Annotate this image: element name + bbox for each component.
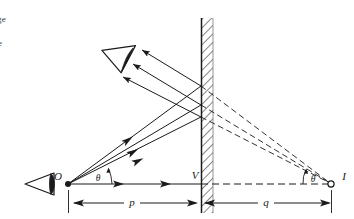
image-point-label: I — [341, 170, 347, 182]
angle-theta-object-arrowhead — [106, 168, 110, 173]
vertex-point-label: V — [192, 169, 200, 181]
reflected-ray-3 — [123, 77, 201, 117]
optics-figure: ge e — [0, 0, 354, 219]
angle-theta-object-label: θ — [96, 173, 101, 183]
observer-eye-receiving-rays — [102, 46, 139, 75]
margin-text-fragment-bottom: e — [0, 38, 2, 48]
object-point-marker — [65, 181, 71, 187]
image-point-marker — [328, 181, 334, 187]
object-point-label: O — [54, 170, 62, 182]
dimension-p-group: p — [69, 190, 199, 213]
dimension-q-group: q — [204, 190, 332, 213]
observer-eye-at-object — [25, 173, 54, 195]
incident-rays — [68, 86, 201, 184]
image-point-group: I — [328, 170, 347, 187]
incident-ray-3-arrowhead — [131, 155, 145, 166]
optical-axis-group — [68, 181, 330, 188]
virtual-ray-2 — [201, 105, 330, 183]
eye-triangle-upper — [102, 46, 139, 75]
angle-theta-image-group: θ — [303, 169, 316, 184]
ray-diagram-canvas: O I V θ θ — [0, 0, 354, 219]
eye-pupil-upper — [119, 48, 137, 71]
incident-ray-1 — [68, 86, 201, 184]
margin-text-fragment-top: ge — [0, 14, 6, 24]
reflected-ray-1 — [142, 50, 201, 86]
object-point-group: O — [54, 170, 71, 187]
angle-theta-image-label: θ — [311, 174, 316, 184]
angle-theta-object-group: θ — [96, 168, 112, 184]
virtual-ray-extensions — [201, 86, 330, 183]
incident-ray-2 — [68, 105, 201, 184]
dimension-p-label: p — [128, 196, 135, 208]
reflected-ray-2 — [133, 64, 201, 105]
virtual-ray-1 — [201, 86, 330, 183]
reflected-rays — [123, 50, 201, 117]
dimension-q-label: q — [263, 196, 269, 208]
